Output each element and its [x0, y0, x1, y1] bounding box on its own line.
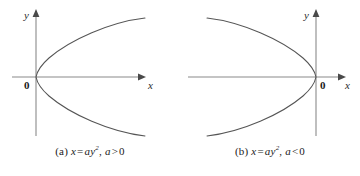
- parabola-figure: y x 0 (a) x=ay2, a>0 y x 0 (b) x=ay2,: [0, 0, 360, 176]
- origin-label-b: 0: [320, 79, 326, 91]
- caption-b-condition-value: 0: [299, 145, 305, 157]
- caption-b-rhs: ay: [265, 145, 276, 157]
- caption-a-rhs: ay: [85, 145, 96, 157]
- caption-a-separator: ,: [99, 145, 102, 157]
- caption-b: (b) x=ay2, a<0: [180, 144, 360, 157]
- caption-b-separator: ,: [279, 145, 282, 157]
- caption-a-label: (a): [55, 145, 68, 157]
- panel-b: y x 0 (b) x=ay2, a<0: [180, 0, 360, 176]
- x-axis-label-a: x: [147, 79, 153, 91]
- y-axis-arrowhead-b: [313, 9, 320, 17]
- panel-a: y x 0 (a) x=ay2, a>0: [0, 0, 180, 176]
- y-axis-label-b: y: [303, 9, 309, 21]
- caption-b-label: (b): [235, 145, 248, 157]
- x-axis-label-b: x: [344, 79, 350, 91]
- plot-a: y x 0: [0, 0, 180, 142]
- caption-a-equals: =: [76, 145, 84, 157]
- y-axis-arrowhead-a: [33, 9, 40, 17]
- caption-a-condition-op: >: [111, 145, 119, 157]
- caption-a-condition-var: a: [105, 145, 111, 157]
- y-axis-label-a: y: [23, 9, 29, 21]
- plot-b: y x 0: [180, 0, 360, 142]
- origin-label-a: 0: [24, 79, 30, 91]
- caption-a-condition-value: 0: [119, 145, 125, 157]
- x-axis-arrowhead-a: [138, 74, 146, 81]
- caption-b-equals: =: [256, 145, 264, 157]
- caption-a: (a) x=ay2, a>0: [0, 144, 180, 157]
